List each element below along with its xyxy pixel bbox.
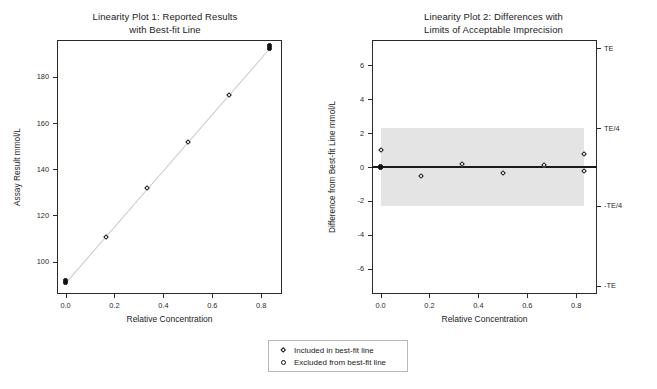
right-axis-tick-label: -TE	[604, 281, 644, 290]
data-point	[266, 42, 273, 49]
right-axis-tick-label: TE/4	[604, 124, 644, 133]
linearity-plot-2: Linearity Plot 2: Differences with Limit…	[330, 0, 657, 340]
x-tick	[429, 294, 430, 298]
legend-item-excluded: Excluded from best-fit line	[279, 358, 386, 367]
x-tick	[527, 294, 528, 298]
plot1-y-axis-label: Assay Result mmol/L	[12, 128, 22, 206]
plot2-title-line2: Limits of Acceptable Imprecision	[330, 24, 657, 37]
y-tick-label: 180	[23, 72, 49, 81]
right-axis-tick	[597, 286, 601, 287]
y-tick	[53, 169, 57, 170]
x-tick-label: 0.4	[460, 301, 496, 310]
y-tick-label: -2	[338, 196, 364, 205]
plot1-title-line2: with Best-fit Line	[0, 24, 330, 37]
x-tick-label: 0.6	[194, 301, 230, 310]
y-tick-label: 6	[338, 61, 364, 70]
x-tick-label: 0.2	[411, 301, 447, 310]
y-tick	[53, 77, 57, 78]
y-tick-label: 0	[338, 163, 364, 172]
y-tick-label: -4	[338, 230, 364, 239]
data-point	[225, 92, 232, 99]
data-point	[418, 172, 425, 179]
y-tick	[368, 235, 372, 236]
plot2-title: Linearity Plot 2: Differences with Limit…	[330, 11, 657, 36]
plot1-title-line1: Linearity Plot 1: Reported Results	[0, 11, 330, 24]
right-axis-tick-label: TE	[604, 44, 644, 53]
x-tick-label: 0.2	[96, 301, 132, 310]
circle-marker-icon	[279, 358, 288, 367]
y-tick	[368, 133, 372, 134]
y-tick-label: 2	[338, 129, 364, 138]
plot2-x-axis-label: Relative Concentration	[372, 314, 597, 324]
x-tick	[478, 294, 479, 298]
data-point	[377, 147, 384, 154]
x-tick-label: 0.8	[558, 301, 594, 310]
y-tick-label: 4	[338, 95, 364, 104]
y-tick	[368, 65, 372, 66]
data-point	[499, 170, 506, 177]
y-tick-label: 140	[23, 165, 49, 174]
y-tick-label: -6	[338, 264, 364, 273]
legend-label-included: Included in best-fit line	[294, 346, 374, 355]
linearity-figure: Linearity Plot 1: Reported Results with …	[0, 0, 657, 389]
data-point	[377, 164, 384, 171]
data-point	[62, 277, 69, 284]
y-tick-label: 100	[23, 257, 49, 266]
linearity-plot-1: Linearity Plot 1: Reported Results with …	[0, 0, 330, 340]
x-tick-label: 0.0	[48, 301, 84, 310]
x-tick-label: 0.4	[145, 301, 181, 310]
legend-item-included: Included in best-fit line	[279, 346, 374, 355]
right-axis-tick	[597, 48, 601, 49]
data-point	[581, 151, 588, 158]
x-tick-label: 0.0	[363, 301, 399, 310]
x-tick	[261, 294, 262, 298]
y-tick	[368, 201, 372, 202]
x-tick	[212, 294, 213, 298]
plot1-axes-frame	[57, 40, 282, 294]
data-point	[184, 139, 191, 146]
x-tick	[66, 294, 67, 298]
zero-reference-line	[372, 166, 597, 167]
data-point	[144, 185, 151, 192]
x-tick	[163, 294, 164, 298]
data-point	[459, 161, 466, 168]
legend-label-excluded: Excluded from best-fit line	[294, 358, 386, 367]
y-tick	[53, 262, 57, 263]
y-tick	[53, 123, 57, 124]
data-point	[540, 161, 547, 168]
x-tick	[381, 294, 382, 298]
diamond-marker-icon	[279, 346, 288, 355]
y-tick	[368, 167, 372, 168]
plot2-y-axis-label: Difference from Best-fit Line mmol/L	[327, 101, 337, 233]
y-tick-label: 120	[23, 211, 49, 220]
right-axis-tick	[597, 128, 601, 129]
y-tick	[368, 269, 372, 270]
x-tick-label: 0.6	[509, 301, 545, 310]
y-tick	[53, 215, 57, 216]
x-tick	[576, 294, 577, 298]
x-tick-label: 0.8	[243, 301, 279, 310]
y-tick	[368, 99, 372, 100]
figure-legend: Included in best-fit line Excluded from …	[268, 340, 408, 372]
right-axis-tick	[597, 206, 601, 207]
y-tick-label: 160	[23, 119, 49, 128]
plot2-title-line1: Linearity Plot 2: Differences with	[330, 11, 657, 24]
right-axis-tick-label: -TE/4	[604, 201, 644, 210]
data-point	[103, 233, 110, 240]
data-point	[581, 168, 588, 175]
plot1-x-axis-label: Relative Concentration	[57, 314, 282, 324]
x-tick	[114, 294, 115, 298]
plot1-title: Linearity Plot 1: Reported Results with …	[0, 11, 330, 36]
